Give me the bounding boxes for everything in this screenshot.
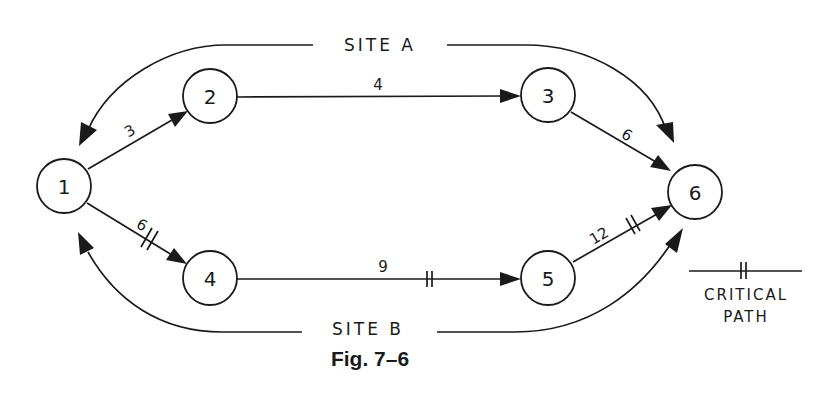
site-b-label: SITE B [332, 319, 404, 339]
edge-1-2: 3 [88, 111, 188, 169]
edge-4-5: 9 [237, 258, 521, 287]
edge-5-6-duration: 12 [586, 223, 612, 248]
critical-path-legend: CRITICAL PATH [689, 262, 802, 326]
node-1: 1 [37, 159, 91, 213]
node-2: 2 [183, 69, 237, 123]
node-6: 6 [668, 165, 722, 219]
edge-4-5-duration: 9 [378, 258, 388, 276]
edge-3-6: 6 [571, 112, 671, 171]
node-6-label: 6 [689, 181, 702, 205]
site-a-label: SITE A [344, 35, 416, 55]
legend-label-path: PATH [723, 308, 769, 326]
node-4-label: 4 [204, 267, 217, 291]
edge-5-6-arrowhead [651, 205, 672, 221]
site-a-right-arrowhead [656, 122, 674, 143]
edge-3-6-arrowhead [650, 155, 671, 171]
edge-4-5-arrowhead [500, 272, 521, 286]
node-5-label: 5 [542, 267, 555, 291]
edge-2-3: 4 [237, 76, 521, 103]
network-diagram: SITE A SITE B 3 4 6 6 [0, 0, 839, 393]
node-4: 4 [183, 251, 237, 305]
edge-5-6: 12 [573, 205, 672, 262]
legend-label-critical: CRITICAL [704, 286, 788, 304]
site-b-left-arrowhead [78, 232, 94, 255]
node-2-label: 2 [204, 85, 217, 109]
edge-1-4-arrowhead [166, 248, 187, 264]
edge-1-2-duration: 3 [121, 121, 138, 141]
node-3-label: 3 [542, 84, 555, 108]
site-a-left-arrowhead [79, 122, 97, 146]
node-1-label: 1 [58, 175, 71, 199]
node-3: 3 [521, 68, 575, 122]
edge-1-4: 6 [87, 203, 187, 264]
edge-1-2-arrowhead [168, 111, 188, 127]
edge-2-3-duration: 4 [373, 76, 383, 94]
figure-caption: Fig. 7–6 [331, 347, 409, 370]
node-5: 5 [521, 251, 575, 305]
edge-2-3-arrowhead [500, 89, 521, 103]
